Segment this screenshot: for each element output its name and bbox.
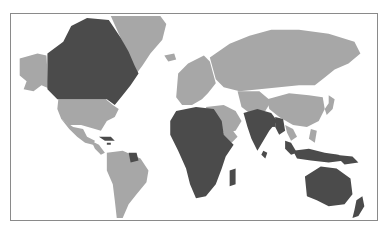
- region-central-america[interactable]: [91, 141, 105, 155]
- region-bangladesh[interactable]: [271, 121, 275, 127]
- region-sri-lanka[interactable]: [261, 151, 267, 159]
- region-madagascar[interactable]: [230, 169, 236, 187]
- region-europe[interactable]: [176, 56, 216, 106]
- region-iceland[interactable]: [164, 54, 176, 62]
- region-russia[interactable]: [210, 30, 361, 91]
- region-united-states[interactable]: [57, 99, 118, 131]
- region-cuba[interactable]: [99, 137, 115, 141]
- region-alaska[interactable]: [20, 54, 49, 92]
- region-philippines[interactable]: [309, 129, 317, 143]
- world-map[interactable]: [11, 14, 377, 220]
- region-australia[interactable]: [305, 167, 353, 207]
- region-japan[interactable]: [325, 95, 335, 115]
- region-myanmar[interactable]: [275, 117, 285, 135]
- region-thailand[interactable]: [285, 125, 297, 141]
- region-new-zealand[interactable]: [352, 196, 364, 218]
- region-india[interactable]: [244, 109, 278, 151]
- region-central-asia[interactable]: [238, 91, 272, 113]
- region-south-america[interactable]: [107, 151, 149, 218]
- region-jamaica[interactable]: [107, 143, 111, 145]
- map-frame: [10, 13, 378, 221]
